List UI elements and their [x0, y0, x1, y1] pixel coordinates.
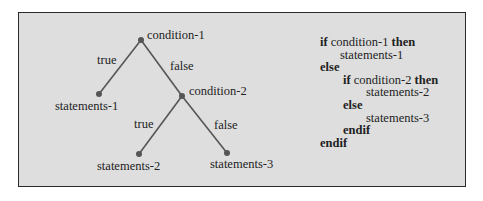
node-label-condition-2: condition-2 [189, 84, 247, 98]
code-line-7: statements-3 [320, 112, 438, 125]
node-label-statements-1: statements-1 [55, 99, 118, 113]
node-statements-2-dot [136, 151, 142, 157]
edge-label-c2-true: true [134, 117, 153, 131]
pseudocode-block: if condition-1 then statements-1 else if… [320, 36, 438, 149]
code-line-9: endif [320, 137, 438, 150]
code-statement: statements-3 [366, 111, 429, 125]
keyword-if: if [343, 73, 351, 87]
node-statements-1-dot [96, 91, 102, 97]
node-statements-3-dot [224, 150, 230, 156]
edge-label-c1-true: true [97, 53, 116, 67]
node-label-statements-3: statements-3 [210, 157, 273, 171]
edge-c1-s1 [99, 40, 141, 94]
code-statement: statements-2 [366, 85, 429, 99]
keyword-else: else [320, 60, 339, 74]
code-statement: statements-1 [340, 48, 403, 62]
node-condition-2-dot [179, 93, 185, 99]
node-condition-1-dot [138, 37, 144, 43]
keyword-endif: endif [320, 136, 347, 150]
keyword-else: else [343, 98, 362, 112]
code-line-5: statements-2 [320, 86, 438, 99]
edge-label-c1-false: false [170, 59, 194, 73]
node-label-condition-1: condition-1 [147, 28, 205, 42]
edge-label-c2-false: false [214, 118, 238, 132]
node-label-statements-2: statements-2 [97, 159, 160, 173]
keyword-if: if [320, 35, 328, 49]
